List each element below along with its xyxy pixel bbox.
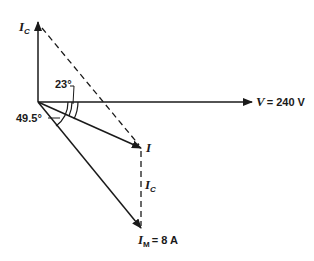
angle-arc-23-outer [74, 102, 78, 119]
im-label: IM= 8 A [137, 232, 178, 249]
angle-arc-49 [56, 102, 68, 126]
ic-dashed-label: IC [144, 177, 156, 194]
i-label: I [145, 140, 152, 155]
angle-49-label: 49.5° [16, 112, 42, 124]
angle-23-label: 23° [55, 78, 72, 90]
phasor-diagram: IC 23° 49.5° V= 240 V I IC IM= 8 A [0, 0, 314, 261]
im-phasor [38, 102, 141, 228]
ic-label: IC [18, 19, 30, 36]
v-label: V= 240 V [256, 94, 306, 109]
i-phasor [38, 102, 141, 148]
angle-arc-23 [69, 102, 72, 116]
